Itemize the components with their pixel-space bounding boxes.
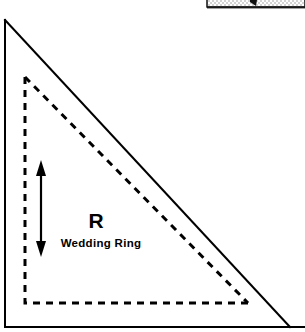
figure-drawing-canvas bbox=[0, 0, 305, 332]
cropped-figure-above bbox=[207, 0, 305, 8]
stipple-strip-baseline bbox=[207, 6, 305, 8]
figure-background bbox=[0, 0, 305, 332]
quilt-template-figure: R Wedding Ring bbox=[0, 0, 305, 332]
